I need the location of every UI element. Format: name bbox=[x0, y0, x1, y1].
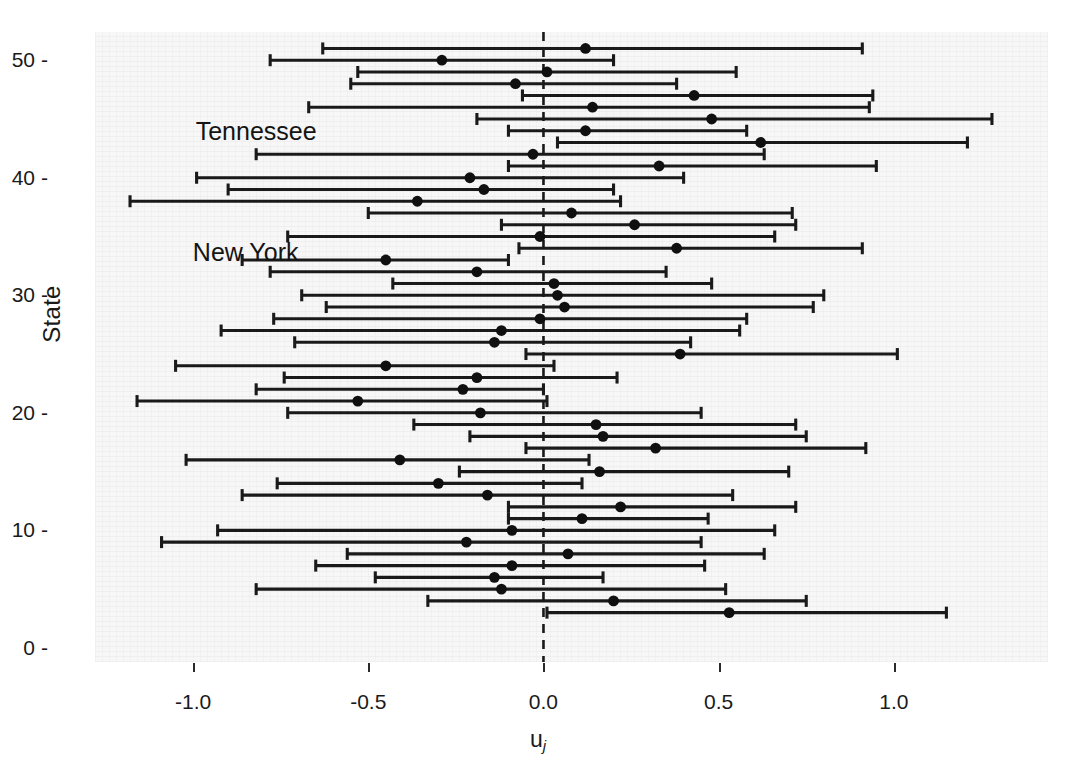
state-annotation-label: Tennessee bbox=[196, 116, 317, 145]
interval-row bbox=[347, 548, 764, 560]
interval-row bbox=[358, 66, 736, 78]
estimate-point bbox=[433, 478, 444, 489]
interval-row bbox=[470, 430, 806, 442]
interval-row bbox=[221, 325, 740, 337]
interval-row bbox=[508, 501, 795, 513]
estimate-point bbox=[563, 548, 574, 559]
interval-row bbox=[526, 348, 897, 360]
interval-row bbox=[414, 419, 796, 431]
estimate-point bbox=[472, 372, 483, 383]
interval-row bbox=[218, 524, 775, 536]
estimate-point bbox=[559, 302, 570, 313]
estimate-point bbox=[436, 55, 447, 66]
interval-row bbox=[309, 101, 870, 113]
interval-row bbox=[323, 42, 863, 54]
interval-row bbox=[256, 583, 725, 595]
interval-row bbox=[557, 136, 967, 148]
y-tick-mark: - bbox=[35, 283, 48, 307]
x-tick-label: 1.0 bbox=[849, 690, 939, 714]
estimate-point bbox=[689, 90, 700, 101]
interval-row bbox=[137, 395, 547, 407]
x-tick-label: -0.5 bbox=[323, 690, 413, 714]
estimate-point bbox=[629, 219, 640, 230]
estimate-point bbox=[510, 78, 521, 89]
interval-row bbox=[501, 219, 795, 231]
estimate-point bbox=[580, 125, 591, 136]
x-tick-label: 0.5 bbox=[674, 690, 764, 714]
estimate-point bbox=[507, 560, 518, 571]
estimate-point bbox=[650, 443, 661, 454]
interval-row bbox=[162, 536, 702, 548]
estimate-point bbox=[479, 184, 490, 195]
interval-row bbox=[270, 54, 613, 66]
estimate-point bbox=[549, 278, 560, 289]
x-tick-label: 0.0 bbox=[498, 690, 588, 714]
estimate-point bbox=[507, 525, 518, 536]
x-axis-title: uj bbox=[0, 726, 1076, 754]
interval-row bbox=[270, 266, 666, 278]
estimate-point bbox=[472, 266, 483, 277]
estimate-point bbox=[598, 431, 609, 442]
estimate-point bbox=[496, 325, 507, 336]
x-tick-mark bbox=[368, 663, 370, 672]
estimate-point bbox=[755, 137, 766, 148]
interval-row bbox=[176, 360, 554, 372]
interval-row bbox=[295, 336, 691, 348]
y-tick-label: 40 - bbox=[0, 166, 48, 190]
x-tick-label: -1.0 bbox=[148, 690, 238, 714]
estimate-point bbox=[580, 43, 591, 54]
estimate-point bbox=[394, 454, 405, 465]
interval-row bbox=[375, 571, 603, 583]
y-tick-value: 20 bbox=[12, 401, 35, 424]
estimate-point bbox=[591, 419, 602, 430]
interval-row bbox=[459, 466, 788, 478]
estimate-point bbox=[608, 595, 619, 606]
estimate-point bbox=[482, 490, 493, 501]
interval-row bbox=[288, 231, 775, 243]
x-axis-title-subscript: j bbox=[543, 737, 546, 754]
y-tick-mark: - bbox=[35, 166, 48, 190]
estimate-point bbox=[566, 208, 577, 219]
y-tick-label: 20 - bbox=[0, 401, 48, 425]
estimate-point bbox=[542, 67, 553, 78]
estimate-point bbox=[535, 313, 546, 324]
y-tick-mark: - bbox=[35, 518, 48, 542]
interval-row bbox=[256, 383, 543, 395]
interval-row bbox=[547, 607, 946, 619]
interval-row bbox=[393, 278, 712, 290]
interval-row bbox=[288, 407, 701, 419]
estimate-point bbox=[380, 255, 391, 266]
x-tick-mark bbox=[193, 663, 195, 672]
interval-row bbox=[302, 289, 824, 301]
x-tick-mark bbox=[894, 663, 896, 672]
interval-row bbox=[316, 560, 705, 572]
y-tick-value: 40 bbox=[12, 166, 35, 189]
estimate-point bbox=[706, 114, 717, 125]
interval-row bbox=[508, 160, 876, 172]
interval-row bbox=[428, 595, 806, 607]
y-tick-value: 50 bbox=[12, 48, 35, 71]
interval-row bbox=[228, 184, 613, 196]
x-tick-mark bbox=[543, 663, 545, 672]
estimate-point bbox=[654, 161, 665, 172]
interval-row bbox=[186, 454, 589, 466]
interval-row bbox=[130, 195, 621, 207]
estimate-point bbox=[671, 243, 682, 254]
estimate-point bbox=[496, 584, 507, 595]
interval-row bbox=[351, 78, 677, 90]
estimate-point bbox=[724, 607, 735, 618]
interval-row bbox=[368, 207, 792, 219]
estimate-point bbox=[380, 360, 391, 371]
y-tick-mark: - bbox=[35, 48, 48, 72]
estimate-point bbox=[528, 149, 539, 160]
interval-row bbox=[326, 301, 813, 313]
estimate-point bbox=[615, 501, 626, 512]
estimate-point bbox=[535, 231, 546, 242]
interval-row bbox=[519, 242, 862, 254]
estimate-point bbox=[461, 537, 472, 548]
x-tick-mark bbox=[719, 663, 721, 672]
estimate-point bbox=[594, 466, 605, 477]
interval-row bbox=[522, 89, 872, 101]
y-tick-value: 30 bbox=[12, 283, 35, 306]
y-tick-label: 50 - bbox=[0, 48, 48, 72]
